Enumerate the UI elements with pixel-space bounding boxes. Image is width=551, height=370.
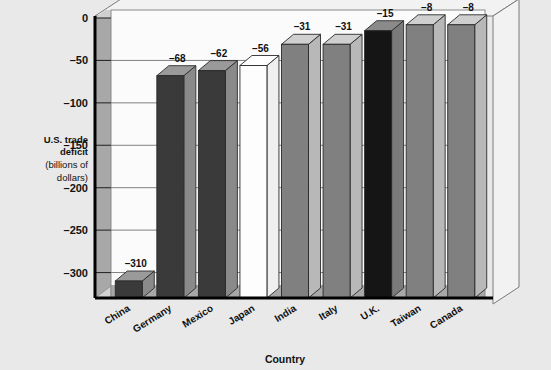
y-axis-title-line4: dollars) [57, 172, 88, 183]
bar-value-label: –8 [463, 2, 475, 13]
bar-mexico [198, 61, 237, 298]
y-tick-label: –100 [64, 97, 88, 109]
y-tick-label: –200 [64, 182, 88, 194]
y-axis-title-line1: U.S. trade [44, 134, 88, 145]
bar-value-label: –8 [421, 2, 433, 13]
bar-side-face [267, 56, 279, 298]
bar-india [282, 34, 321, 298]
bar-value-label: –310 [125, 258, 148, 269]
bar-taiwan [406, 15, 445, 298]
trade-deficit-bar-chart: 0–50–100–150–200–250–300 –310–68–62–56–3… [0, 0, 551, 370]
bar-front-face [406, 25, 433, 298]
frame-right-ledge [493, 0, 519, 304]
bar-value-label: –68 [169, 53, 186, 64]
bar-side-face [350, 34, 362, 298]
x-axis-title: Country [265, 353, 305, 365]
bar-value-label: –31 [335, 21, 352, 32]
bar-front-face [365, 31, 392, 298]
bar-value-label: –62 [211, 48, 228, 59]
bar-front-face [240, 66, 267, 298]
bar-side-face [184, 66, 196, 298]
bar-value-label: –31 [294, 21, 311, 32]
bar-germany [157, 66, 196, 298]
bar-front-face [323, 44, 350, 298]
bar-side-face [475, 15, 487, 298]
bar-uk [365, 21, 404, 298]
bar-italy [323, 34, 362, 298]
y-tick-label: 0 [82, 12, 88, 24]
bar-japan [240, 56, 279, 298]
y-tick-label: –300 [64, 267, 88, 279]
y-axis-title-line2: deficit [60, 146, 89, 157]
bar-canada [448, 15, 487, 298]
bar-front-face [157, 76, 184, 298]
bar-side-face [392, 21, 404, 298]
bar-side-face [225, 61, 237, 298]
bar-front-face [115, 281, 142, 298]
y-axis-title-line3: (billions of [45, 159, 88, 170]
y-tick-label: –50 [70, 54, 88, 66]
bar-value-label: –15 [377, 8, 394, 19]
bar-front-face [282, 44, 309, 298]
bar-side-face [309, 34, 321, 298]
bar-front-face [448, 25, 475, 298]
bar-side-face [433, 15, 445, 298]
bar-front-face [198, 71, 225, 298]
chart-svg: 0–50–100–150–200–250–300 –310–68–62–56–3… [0, 0, 551, 370]
bar-value-label: –56 [252, 43, 269, 54]
y-tick-label: –250 [64, 224, 88, 236]
